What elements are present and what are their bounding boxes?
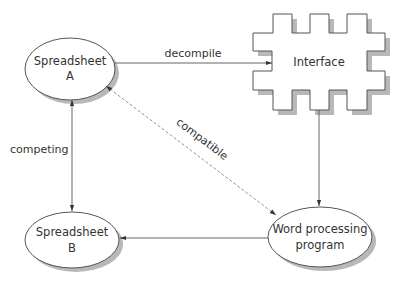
edge-decompile: decompile (115, 47, 272, 63)
edge-competing: competing (10, 100, 72, 211)
edge-compatible: compatible (106, 86, 276, 215)
spreadsheet-b-ellipse (25, 212, 119, 268)
word-processing-label-line2: program (295, 238, 344, 252)
edge-competing-label: competing (10, 143, 69, 156)
edge-compatible-line (106, 86, 276, 215)
spreadsheet-b-node: Spreadsheet B (25, 212, 123, 272)
interface-label: Interface (293, 55, 345, 69)
spreadsheet-b-label-line1: Spreadsheet (36, 225, 109, 239)
word-processing-ellipse (268, 207, 372, 267)
word-processing-node: Word processing program (268, 207, 376, 271)
diagram-canvas: Interface Spreadsheet A Spreadsheet B Wo… (0, 0, 399, 286)
interface-node: Interface (253, 14, 390, 115)
spreadsheet-a-node: Spreadsheet A (25, 38, 119, 104)
edge-decompile-label: decompile (164, 47, 221, 60)
word-processing-label-line1: Word processing (272, 222, 367, 236)
spreadsheet-a-label-line1: Spreadsheet (34, 54, 107, 68)
edge-compatible-label: compatible (174, 116, 231, 163)
spreadsheet-b-label-line2: B (68, 241, 76, 255)
spreadsheet-a-label-line2: A (66, 69, 74, 83)
